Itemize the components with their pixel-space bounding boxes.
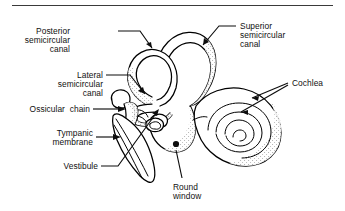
label-superior-line3: canal xyxy=(240,39,260,49)
bony-labyrinth-drawing xyxy=(111,32,281,182)
inner-ear-diagram-figure: Posterior semicircular canal Superior se… xyxy=(0,0,345,211)
label-vestibule: Vestibule xyxy=(64,161,99,171)
label-posterior-line3: canal xyxy=(50,44,70,54)
oval-window-region xyxy=(146,118,163,131)
cochlea-shape xyxy=(194,88,281,166)
label-tympanic-line2: membrane xyxy=(53,137,94,147)
posterior-semicircular-canal-shape xyxy=(128,50,177,106)
arrowhead-posterior-semicircular-canal xyxy=(146,42,152,48)
label-lateral-line3: canal xyxy=(83,88,103,98)
leader-round-window xyxy=(176,150,182,178)
label-cochlea-line1: Cochlea xyxy=(292,78,323,88)
label-round-window: Round window xyxy=(172,182,202,201)
leader-posterior-semicircular-canal xyxy=(118,31,152,48)
label-tympanic-membrane: Tympanic membrane xyxy=(53,128,94,147)
label-vestibule-line1: Vestibule xyxy=(64,161,99,171)
label-lateral-semicircular-canal: Lateral semicircular canal xyxy=(58,70,103,98)
label-round-window-line2: window xyxy=(172,191,202,201)
round-window-marker xyxy=(173,141,179,147)
label-ossicular-chain-line1: Ossicular chain xyxy=(30,104,91,114)
diagram-canvas: Posterior semicircular canal Superior se… xyxy=(0,0,345,211)
label-cochlea: Cochlea xyxy=(292,78,323,88)
label-posterior-semicircular-canal: Posterior semicircular canal xyxy=(25,26,70,54)
label-superior-semicircular-canal: Superior semicircular canal xyxy=(240,21,285,49)
label-ossicular-chain: Ossicular chain xyxy=(30,104,91,114)
